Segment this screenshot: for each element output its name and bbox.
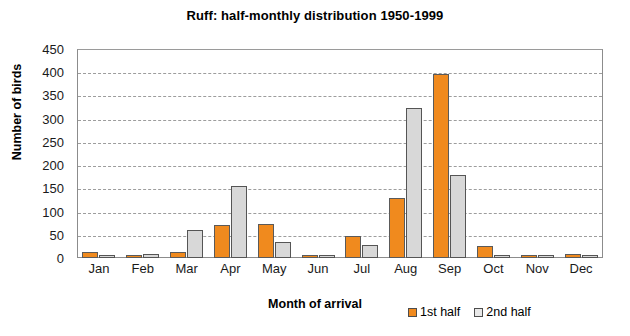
- x-axis-tick-label: Dec: [559, 261, 603, 276]
- bar-jul-second-half: [362, 245, 378, 258]
- chart-title: Ruff: half-monthly distribution 1950-199…: [0, 8, 630, 23]
- bar-jan-second-half: [99, 255, 115, 258]
- legend-entry: 1st half: [408, 305, 460, 319]
- bar-group: [296, 49, 340, 258]
- bar-dec-second-half: [582, 255, 598, 258]
- x-axis-title: Month of arrival: [0, 297, 630, 311]
- bar-group: [77, 49, 121, 258]
- bar-jun-first-half: [302, 255, 318, 258]
- bar-jan-first-half: [82, 252, 98, 258]
- x-axis-tick-labels: JanFebMarAprMayJunJulAugSepOctNovDec: [77, 261, 603, 281]
- bar-group: [428, 49, 472, 258]
- x-axis-tick-label: Apr: [209, 261, 253, 276]
- y-axis-tick-label: 150: [42, 181, 64, 196]
- bar-nov-second-half: [538, 255, 554, 258]
- x-axis-tick-label: Mar: [165, 261, 209, 276]
- x-axis-tick-label: Nov: [515, 261, 559, 276]
- legend-label: 2nd half: [486, 305, 530, 319]
- bar-group: [209, 49, 253, 258]
- y-axis-tick-label: 100: [42, 204, 64, 219]
- bar-mar-first-half: [170, 252, 186, 258]
- y-axis-tick-label: 250: [42, 134, 64, 149]
- bar-sep-second-half: [450, 175, 466, 258]
- bar-nov-first-half: [521, 255, 537, 258]
- bar-oct-second-half: [494, 255, 510, 258]
- x-axis-tick-label: May: [252, 261, 296, 276]
- y-axis-tick-label: 200: [42, 158, 64, 173]
- bar-group: [559, 49, 603, 258]
- x-axis-tick-label: Oct: [472, 261, 516, 276]
- y-axis-tick-label: 0: [57, 251, 64, 266]
- bar-mar-second-half: [187, 230, 203, 258]
- bar-group: [340, 49, 384, 258]
- chart-container: Ruff: half-monthly distribution 1950-199…: [0, 0, 630, 336]
- bar-apr-second-half: [231, 186, 247, 258]
- bar-may-second-half: [275, 242, 291, 258]
- x-axis-tick-label: Sep: [428, 261, 472, 276]
- bar-feb-first-half: [126, 255, 142, 258]
- y-axis-tick-label: 450: [42, 42, 64, 57]
- y-axis-tick-label: 400: [42, 65, 64, 80]
- legend-entry: 2nd half: [474, 305, 530, 319]
- bar-apr-first-half: [214, 225, 230, 258]
- y-axis-tick-label: 350: [42, 88, 64, 103]
- bar-group: [165, 49, 209, 258]
- bar-group: [515, 49, 559, 258]
- bar-jun-second-half: [319, 255, 335, 258]
- bar-aug-second-half: [406, 108, 422, 258]
- x-axis-tick-label: Feb: [121, 261, 165, 276]
- legend-label: 1st half: [420, 305, 460, 319]
- x-axis-tick-label: Jul: [340, 261, 384, 276]
- y-axis-tick-labels: 050100150200250300350400450: [0, 49, 72, 258]
- x-axis-tick-label: Aug: [384, 261, 428, 276]
- legend-swatch-icon: [408, 308, 417, 317]
- y-axis-tick-label: 300: [42, 111, 64, 126]
- bar-group: [384, 49, 428, 258]
- bar-oct-first-half: [477, 246, 493, 258]
- bars-layer: [77, 49, 603, 258]
- bar-feb-second-half: [143, 254, 159, 258]
- bar-may-first-half: [258, 224, 274, 258]
- legend-swatch-icon: [474, 308, 483, 317]
- bar-aug-first-half: [389, 198, 405, 258]
- bar-group: [472, 49, 516, 258]
- bar-group: [252, 49, 296, 258]
- chart-legend: 1st half2nd half: [408, 305, 531, 319]
- bar-dec-first-half: [565, 254, 581, 258]
- y-axis-tick-label: 50: [50, 227, 64, 242]
- x-axis-tick-label: Jan: [77, 261, 121, 276]
- bar-group: [121, 49, 165, 258]
- x-axis-tick-label: Jun: [296, 261, 340, 276]
- bar-sep-first-half: [433, 74, 449, 258]
- bar-jul-first-half: [345, 236, 361, 258]
